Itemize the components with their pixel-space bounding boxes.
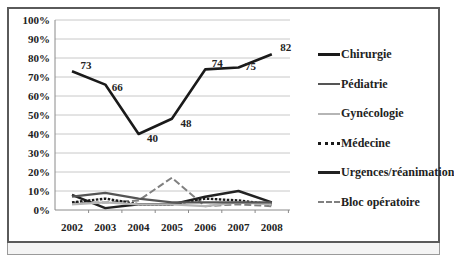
x-tick-label: 2006 [194, 221, 217, 233]
legend-label: Médecine [341, 136, 390, 151]
legend: ChirurgiePédiatrieGynécologieMédecineUrg… [318, 40, 454, 217]
x-axis-labels: 2002200320042005200620072008 [61, 221, 283, 233]
x-tick-label: 2002 [61, 221, 84, 233]
legend-label: Bloc opératoire [341, 195, 420, 210]
y-tick-label: 10% [28, 185, 50, 197]
x-tick-label: 2003 [94, 221, 117, 233]
legend-item: Gynécologie [318, 99, 454, 129]
legend-line-icon [318, 83, 340, 85]
legend-label: Gynécologie [341, 106, 404, 121]
y-tick-label: 0% [34, 204, 51, 216]
legend-item: Pédiatrie [318, 70, 454, 100]
legend-line-icon [318, 171, 340, 174]
legend-item: Bloc opératoire [318, 188, 454, 218]
y-tick-label: 80% [28, 52, 50, 64]
legend-item: Urgences/réanimation [318, 158, 454, 188]
y-axis-labels: 0%10%20%30%40%50%60%70%80%90%100% [23, 14, 51, 216]
data-label: 66 [112, 81, 124, 93]
series-line [72, 193, 272, 203]
legend-line-icon [318, 201, 340, 203]
series-line [72, 54, 272, 134]
y-tick-label: 70% [28, 71, 50, 83]
data-label: 73 [81, 59, 93, 71]
y-tick-label: 50% [28, 109, 50, 121]
data-label: 74 [212, 57, 224, 69]
y-tick-label: 100% [23, 14, 51, 26]
x-tick-label: 2005 [161, 221, 184, 233]
data-label: 75 [245, 60, 257, 72]
y-tick-label: 20% [28, 166, 50, 178]
data-label: 40 [147, 132, 159, 144]
legend-item: Médecine [318, 129, 454, 159]
legend-line-icon [318, 53, 340, 56]
y-tick-label: 40% [28, 128, 50, 140]
legend-item: Chirurgie [318, 40, 454, 70]
x-tick-label: 2008 [261, 221, 284, 233]
legend-line-icon [318, 142, 340, 145]
legend-label: Pédiatrie [341, 77, 388, 92]
data-label: 82 [280, 41, 292, 53]
legend-line-icon [318, 113, 340, 115]
x-tick-label: 2007 [228, 221, 251, 233]
y-tick-label: 90% [28, 33, 50, 45]
x-tick-label: 2004 [128, 221, 151, 233]
data-label: 48 [180, 117, 192, 129]
legend-label: Urgences/réanimation [341, 165, 454, 180]
data-labels: 73664048747582 [81, 41, 292, 144]
y-tick-label: 60% [28, 90, 50, 102]
y-tick-label: 30% [28, 147, 50, 159]
legend-label: Chirurgie [341, 47, 392, 62]
